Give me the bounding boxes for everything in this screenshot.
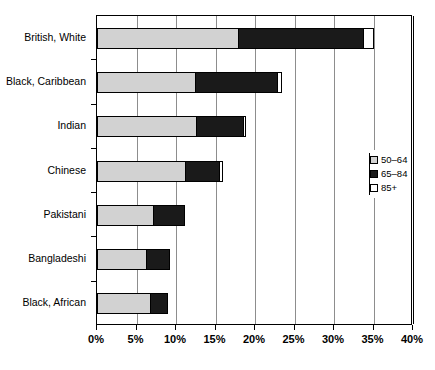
legend-items: 50–6465–8485+ [369, 153, 409, 195]
y-axis-label: Indian [57, 115, 86, 136]
bar-segment-3 [277, 72, 283, 93]
gridline-20 [255, 16, 256, 324]
gridline-25 [295, 16, 296, 324]
swatch-white-icon [370, 184, 378, 192]
swatch-black-icon [370, 170, 378, 178]
bar-segment-1 [97, 72, 196, 93]
swatch-grey-icon [370, 156, 378, 164]
bar-segment-1 [97, 249, 147, 270]
bar-segment-1 [97, 293, 151, 314]
bar-segment-2 [153, 205, 185, 226]
bar-row [97, 249, 169, 270]
y-axis-label: Black, African [22, 292, 86, 313]
bar-segment-2 [146, 249, 170, 270]
legend-item: 65–84 [370, 167, 409, 181]
gridline-40 [413, 16, 414, 324]
bar-segment-3 [219, 161, 223, 182]
x-axis-tick [96, 325, 97, 330]
x-axis-label: 10% [164, 333, 186, 345]
legend-label: 85+ [381, 181, 397, 195]
bar-segment-1 [97, 116, 197, 137]
x-axis-label: 0% [88, 333, 104, 345]
x-axis-tick [175, 325, 176, 330]
bar-row [97, 161, 222, 182]
y-axis-label: Black, Caribbean [6, 71, 86, 92]
x-axis-tick [373, 325, 374, 330]
bar-row [97, 205, 184, 226]
bar-segment-1 [97, 161, 186, 182]
x-axis-tick [333, 325, 334, 330]
legend-label: 50–64 [381, 153, 407, 167]
x-axis-label: 30% [322, 333, 344, 345]
legend-label: 65–84 [381, 167, 407, 181]
x-axis-tick [215, 325, 216, 330]
bar-segment-3 [243, 116, 247, 137]
bar-segment-2 [195, 72, 278, 93]
gridline-30 [334, 16, 335, 324]
bar-segment-3 [363, 28, 373, 49]
x-axis-label: 25% [282, 333, 304, 345]
bar-segment-2 [150, 293, 168, 314]
bar-row [97, 72, 281, 93]
bar-segment-1 [97, 28, 239, 49]
bar-segment-1 [97, 205, 154, 226]
x-axis-tick [294, 325, 295, 330]
x-axis-label: 35% [361, 333, 383, 345]
x-axis-label: 20% [243, 333, 265, 345]
legend-item: 50–64 [370, 153, 409, 167]
x-axis-tick [412, 325, 413, 330]
y-axis-category-labels: British, WhiteBlack, CaribbeanIndianChin… [0, 15, 92, 325]
legend-item: 85+ [370, 181, 409, 195]
bar-row [97, 293, 167, 314]
y-axis-label: Pakistani [43, 204, 86, 225]
legend: 50–6465–8485+ [366, 150, 412, 198]
y-axis-label: Chinese [47, 160, 86, 181]
x-axis-label: 5% [128, 333, 144, 345]
y-axis-label: British, White [24, 27, 86, 48]
bar-segment-2 [196, 116, 243, 137]
x-axis-tick [136, 325, 137, 330]
x-axis-label: 15% [203, 333, 225, 345]
bar-segment-2 [238, 28, 364, 49]
stacked-bar-chart: British, WhiteBlack, CaribbeanIndianChin… [0, 0, 435, 370]
bar-row [97, 116, 245, 137]
x-axis-label: 40% [401, 333, 423, 345]
y-axis-label: Bangladeshi [28, 248, 86, 269]
bar-row [97, 28, 373, 49]
bar-segment-2 [185, 161, 220, 182]
plot-area [96, 15, 412, 325]
x-axis-tick [254, 325, 255, 330]
